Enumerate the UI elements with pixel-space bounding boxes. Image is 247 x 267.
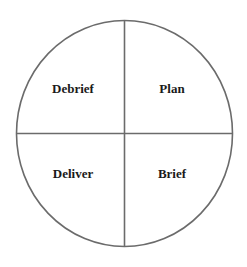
quadrant-label-plan: Plan bbox=[159, 81, 184, 97]
quadrant-label-debrief: Debrief bbox=[52, 81, 94, 97]
quadrant-label-brief: Brief bbox=[158, 166, 186, 182]
quadrant-label-deliver: Deliver bbox=[53, 166, 93, 182]
quadrant-diagram: Debrief Plan Deliver Brief bbox=[0, 0, 247, 267]
quadrant-circle-graphic bbox=[0, 0, 247, 267]
